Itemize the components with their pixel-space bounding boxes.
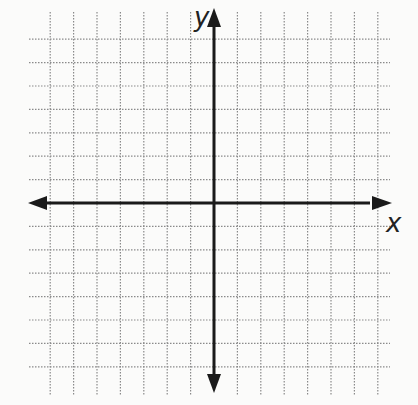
y-axis-down-arrow-icon: [207, 374, 221, 393]
x-axis-label: x: [386, 210, 401, 236]
x-axis-left-arrow-icon: [28, 196, 47, 210]
y-axis: [207, 8, 221, 393]
y-axis-label: y: [194, 4, 209, 30]
coordinate-plane: [0, 0, 418, 405]
x-axis: [28, 196, 392, 210]
